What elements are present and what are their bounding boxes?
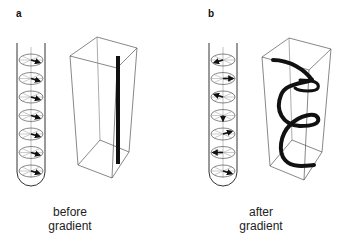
caption-a: before gradient — [30, 205, 110, 233]
diagram-canvas — [0, 0, 340, 240]
spin-discs-b — [211, 54, 235, 177]
volume-box-a — [70, 37, 137, 178]
magnetization-bar-a — [116, 56, 120, 164]
caption-a-line1: before — [30, 205, 110, 219]
test-tube-b — [209, 43, 237, 186]
spin-discs-a — [19, 54, 43, 177]
magnetization-helix-b — [273, 60, 318, 166]
caption-b-line1: after — [221, 205, 301, 219]
caption-b-line2: gradient — [221, 219, 301, 233]
caption-a-line2: gradient — [30, 219, 110, 233]
caption-b: after gradient — [221, 205, 301, 233]
test-tube-a — [17, 43, 45, 186]
